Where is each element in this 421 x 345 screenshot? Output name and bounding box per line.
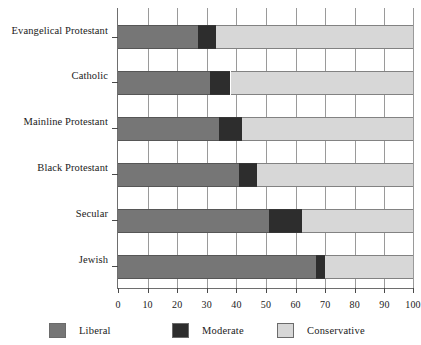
gridline-10: [148, 8, 149, 288]
y-axis-label-5: Jewish: [0, 254, 108, 265]
x-tick-label-30: 30: [202, 299, 212, 310]
bar-segment-liberal[interactable]: [118, 117, 219, 141]
x-tick-50: [266, 288, 267, 293]
bar-segment-moderate[interactable]: [316, 255, 325, 279]
legend-item-conservative[interactable]: Conservative: [277, 323, 365, 338]
legend-swatch-moderate-icon: [172, 323, 189, 338]
legend-item-moderate[interactable]: Moderate: [172, 323, 244, 338]
legend-label-liberal: Liberal: [79, 325, 111, 336]
x-tick-10: [148, 288, 149, 293]
bar-segment-moderate[interactable]: [198, 25, 216, 49]
x-tick-label-40: 40: [231, 299, 241, 310]
bar-segment-conservative[interactable]: [231, 71, 414, 95]
plot-area: 0 10 20 30 40 50 60 70 80 90 100: [117, 8, 413, 289]
bar-segment-liberal[interactable]: [118, 255, 316, 279]
x-tick-label-100: 100: [405, 299, 421, 310]
bar-segment-liberal[interactable]: [118, 209, 269, 233]
x-tick-0: [118, 288, 119, 293]
y-axis-label-3: Black Protestant: [0, 162, 108, 173]
y-axis-label-4: Secular: [0, 208, 108, 219]
x-tick-label-20: 20: [172, 299, 182, 310]
bar-row-secular[interactable]: [118, 209, 413, 233]
legend-item-liberal[interactable]: Liberal: [49, 323, 111, 338]
bar-segment-conservative[interactable]: [302, 209, 413, 233]
bar-row-black-protestant[interactable]: [118, 163, 413, 187]
bar-segment-liberal[interactable]: [118, 25, 198, 49]
x-tick-label-80: 80: [350, 299, 360, 310]
bar-segment-liberal[interactable]: [118, 71, 210, 95]
gridline-20: [177, 8, 178, 288]
y-axis-label-1: Catholic: [0, 70, 108, 81]
bar-row-evangelical-protestant[interactable]: [118, 25, 413, 49]
bar-segment-liberal[interactable]: [118, 163, 239, 187]
bar-row-mainline-protestant[interactable]: [118, 117, 413, 141]
bar-segment-moderate[interactable]: [219, 117, 243, 141]
x-tick-label-0: 0: [115, 299, 120, 310]
x-tick-label-70: 70: [320, 299, 330, 310]
gridline-90: [384, 8, 385, 288]
gridline-50: [266, 8, 267, 288]
legend-swatch-conservative-icon: [277, 323, 294, 338]
bar-segment-conservative[interactable]: [216, 25, 413, 49]
bar-segment-moderate[interactable]: [269, 209, 302, 233]
x-tick-label-90: 90: [379, 299, 389, 310]
x-tick-60: [296, 288, 297, 293]
x-tick-label-10: 10: [142, 299, 152, 310]
x-tick-100: [413, 288, 414, 293]
chart-legend: Liberal Moderate Conservative: [0, 318, 421, 342]
legend-swatch-liberal-icon: [49, 323, 66, 338]
legend-label-moderate: Moderate: [202, 325, 244, 336]
x-tick-40: [236, 288, 237, 293]
x-tick-label-50: 50: [261, 299, 271, 310]
bar-segment-conservative[interactable]: [325, 255, 413, 279]
x-tick-70: [325, 288, 326, 293]
bar-row-catholic[interactable]: [118, 71, 413, 95]
bar-row-jewish[interactable]: [118, 255, 413, 279]
x-tick-20: [177, 288, 178, 293]
gridline-80: [355, 8, 356, 288]
bar-segment-moderate[interactable]: [239, 163, 257, 187]
y-axis-label-2: Mainline Protestant: [0, 116, 108, 127]
bar-segment-conservative[interactable]: [242, 117, 413, 141]
gridline-70: [325, 8, 326, 288]
x-tick-30: [207, 288, 208, 293]
x-tick-90: [384, 288, 385, 293]
x-tick-80: [355, 288, 356, 293]
gridline-40: [236, 8, 237, 288]
stacked-bar-chart: Evangelical Protestant Catholic Mainline…: [0, 0, 421, 345]
gridline-60: [296, 8, 297, 288]
gridline-30: [207, 8, 208, 288]
bar-segment-moderate[interactable]: [210, 71, 231, 95]
legend-label-conservative: Conservative: [307, 325, 365, 336]
x-tick-label-60: 60: [290, 299, 300, 310]
gridline-100: [413, 8, 414, 288]
bar-segment-conservative[interactable]: [257, 163, 413, 187]
y-axis-label-0: Evangelical Protestant: [0, 25, 108, 36]
